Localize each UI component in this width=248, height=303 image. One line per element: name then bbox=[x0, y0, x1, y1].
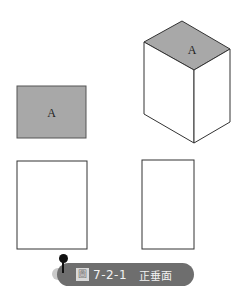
top-view-label: A bbox=[47, 106, 56, 120]
figure-icon: 圖 bbox=[76, 268, 89, 281]
pin-icon bbox=[59, 254, 68, 263]
projection-diagram: A A bbox=[0, 0, 248, 303]
front-view-right bbox=[142, 160, 194, 249]
front-view-left bbox=[17, 161, 87, 249]
figure-title: 正垂面 bbox=[139, 267, 172, 283]
iso-top-label: A bbox=[188, 43, 197, 57]
figure-caption: 圖 7-2-1 正垂面 bbox=[57, 263, 194, 286]
figure-number: 7-2-1 bbox=[93, 268, 127, 282]
